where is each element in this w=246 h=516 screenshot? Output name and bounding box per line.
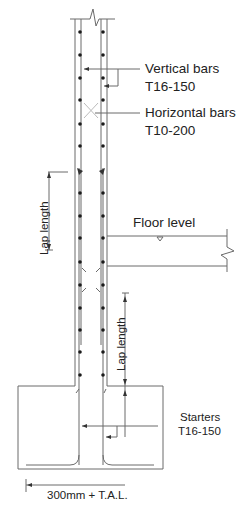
- floor-level-triangle: [157, 237, 163, 241]
- lap-length-lower-label: Lap length: [115, 317, 128, 371]
- vertical-bars-spec: T16-150: [145, 80, 195, 95]
- top-break-line: [70, 9, 115, 26]
- rc-section-drawing: [0, 0, 246, 516]
- vertical-bars-label: Vertical bars: [145, 62, 219, 77]
- starter-right-bend: [103, 455, 154, 465]
- starter-left-bend: [26, 455, 79, 465]
- floor-level-label: Floor level: [133, 216, 195, 231]
- bottom-dimension-label: 300mm + T.A.L.: [47, 489, 128, 502]
- horizontal-bars-spec: T10-200: [145, 124, 195, 139]
- footing-outline: [18, 386, 163, 469]
- horizontal-bars-label: Horizontal bars: [145, 106, 236, 121]
- starters-spec: T16-150: [178, 425, 221, 438]
- lap-length-upper-label: Lap length: [38, 201, 51, 255]
- starters-label: Starters: [180, 411, 220, 424]
